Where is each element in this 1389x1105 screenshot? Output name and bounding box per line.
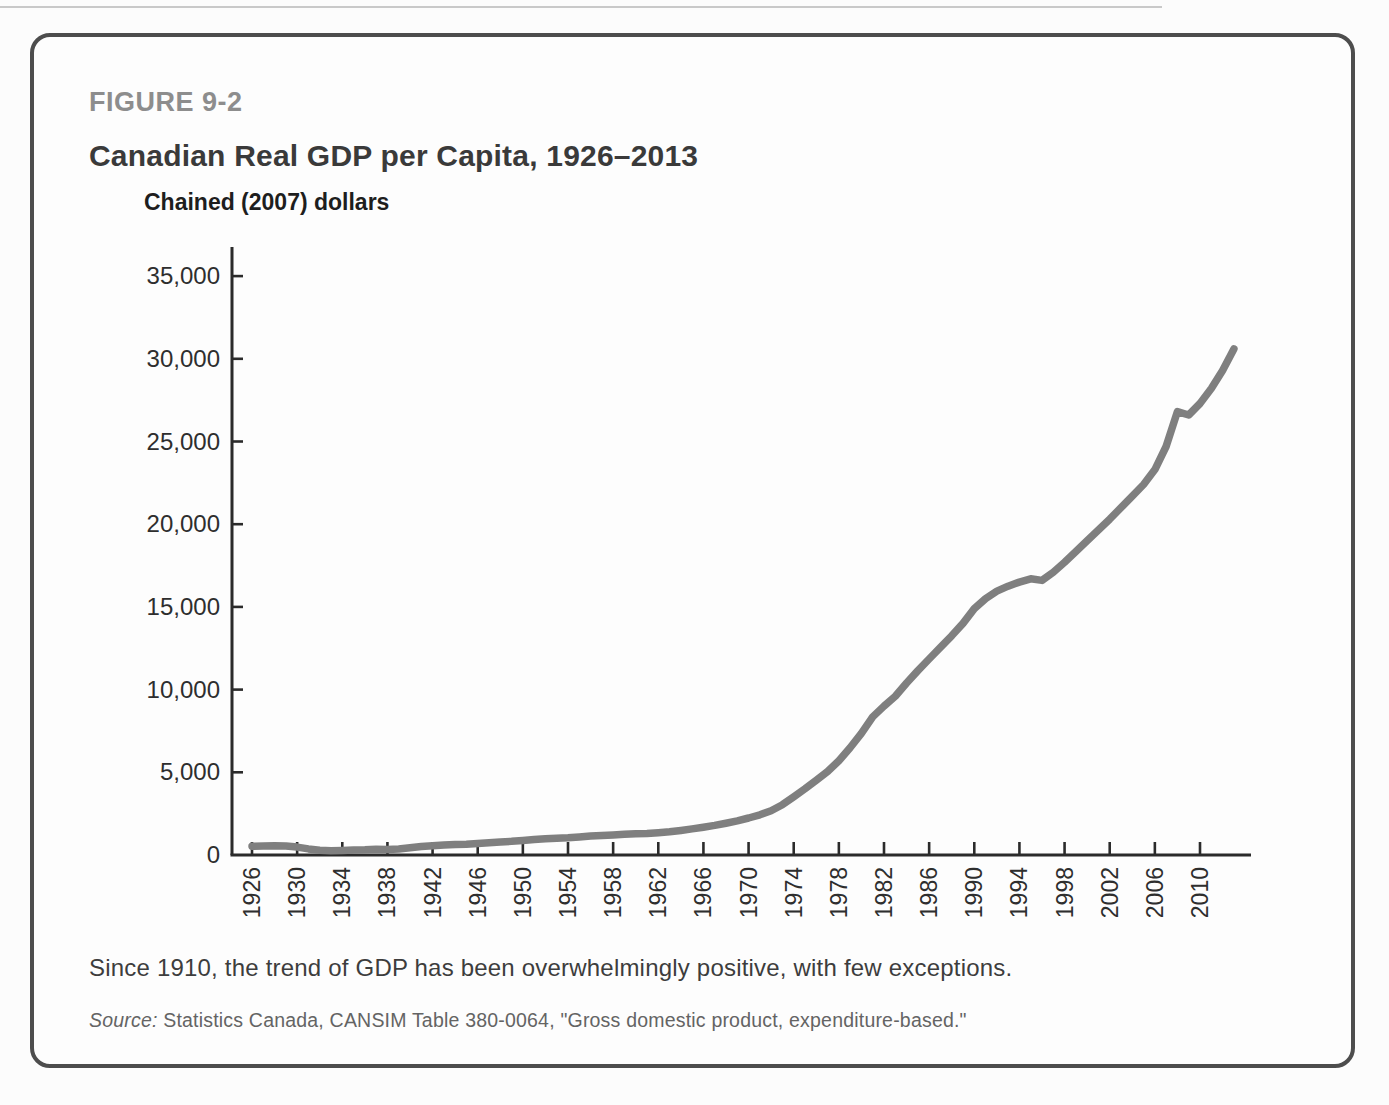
y-axis-tick-label: 30,000 bbox=[147, 345, 220, 372]
x-axis-tick-label: 2010 bbox=[1187, 867, 1213, 918]
x-axis-tick-label: 1926 bbox=[239, 867, 265, 918]
y-axis-tick-label: 35,000 bbox=[147, 262, 220, 289]
figure-caption: Since 1910, the trend of GDP has been ov… bbox=[89, 954, 1012, 982]
figure-source: Source: Statistics Canada, CANSIM Table … bbox=[89, 1009, 967, 1032]
x-axis-tick-label: 1982 bbox=[871, 867, 897, 918]
page-background: { "figure": { "label": "FIGURE 9-2", "ti… bbox=[0, 0, 1389, 1105]
x-axis-tick-label: 1990 bbox=[961, 867, 987, 918]
x-axis-tick-label: 1962 bbox=[645, 867, 671, 918]
x-axis-tick-label: 1966 bbox=[690, 867, 716, 918]
y-axis-tick-label: 15,000 bbox=[147, 593, 220, 620]
x-axis-tick-label: 2006 bbox=[1142, 867, 1168, 918]
x-axis-tick-label: 1974 bbox=[781, 867, 807, 918]
y-axis-tick-label: 0 bbox=[207, 841, 220, 868]
figure-title: Canadian Real GDP per Capita, 1926–2013 bbox=[89, 139, 698, 173]
x-axis-tick-label: 1930 bbox=[284, 867, 310, 918]
source-text: Statistics Canada, CANSIM Table 380-0064… bbox=[158, 1009, 967, 1031]
y-axis-unit-label: Chained (2007) dollars bbox=[144, 189, 389, 216]
x-axis-tick-label: 1958 bbox=[600, 867, 626, 918]
y-axis-tick-label: 5,000 bbox=[160, 758, 220, 785]
x-axis-tick-label: 1970 bbox=[736, 867, 762, 918]
x-axis-tick-label: 2002 bbox=[1097, 867, 1123, 918]
gdp-line-chart: 05,00010,00015,00020,00025,00030,00035,0… bbox=[119, 239, 1259, 939]
x-axis-tick-label: 1994 bbox=[1006, 867, 1032, 918]
x-axis-tick-label: 1946 bbox=[465, 867, 491, 918]
x-axis-tick-label: 1934 bbox=[329, 867, 355, 918]
x-axis-tick-label: 1986 bbox=[916, 867, 942, 918]
x-axis-tick-label: 1998 bbox=[1052, 867, 1078, 918]
gdp-series-line bbox=[252, 349, 1234, 851]
x-axis-tick-label: 1938 bbox=[374, 867, 400, 918]
y-axis-tick-label: 25,000 bbox=[147, 428, 220, 455]
y-axis-tick-label: 10,000 bbox=[147, 676, 220, 703]
source-prefix: Source: bbox=[89, 1009, 158, 1031]
x-axis-tick-label: 1954 bbox=[555, 867, 581, 918]
figure-label: FIGURE 9-2 bbox=[89, 87, 243, 118]
figure-card: FIGURE 9-2 Canadian Real GDP per Capita,… bbox=[30, 33, 1355, 1068]
x-axis-tick-label: 1978 bbox=[826, 867, 852, 918]
x-axis-tick-label: 1942 bbox=[420, 867, 446, 918]
x-axis-tick-label: 1950 bbox=[510, 867, 536, 918]
y-axis-tick-label: 20,000 bbox=[147, 510, 220, 537]
page-crop-artifact-line bbox=[0, 6, 1162, 8]
